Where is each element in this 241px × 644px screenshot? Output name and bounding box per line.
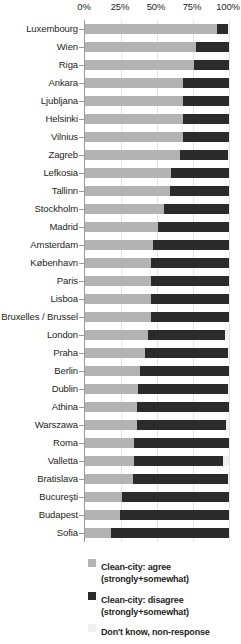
chart-row: Ankara: [0, 73, 241, 93]
bar-segment-dont-know: [228, 348, 229, 358]
bar-segment-agree: [85, 348, 145, 358]
x-axis-tick-75: 75%: [183, 1, 201, 13]
y-axis-tick: [79, 371, 84, 372]
legend-label: Don't know, non-response: [101, 627, 210, 637]
y-axis-tick: [79, 101, 84, 102]
bar-segment-disagree: [137, 402, 229, 412]
legend-label: Clean-city: agree(strongly+somewhat): [101, 562, 241, 586]
category-label-ankara: Ankara: [0, 73, 78, 93]
bar-segment-agree: [85, 330, 148, 340]
legend-item-2[interactable]: Don't know, non-response: [88, 621, 241, 639]
category-label-roma: Roma: [0, 433, 78, 453]
category-label-bucure-ti: Bucureşti: [0, 487, 78, 507]
chart-row: Wien: [0, 37, 241, 57]
bar-segment-disagree: [134, 438, 229, 448]
bar-segment-dont-know: [223, 456, 229, 466]
bar-track: [85, 456, 229, 466]
bar-track: [85, 150, 229, 160]
category-label-ljubljana: Ljubljana: [0, 91, 78, 111]
bar-segment-agree: [85, 366, 140, 376]
bar-segment-agree: [85, 492, 122, 502]
chart-row: Bruxelles / Brussel: [0, 307, 241, 327]
chart-row: Madrid: [0, 217, 241, 237]
y-axis-tick: [79, 335, 84, 336]
bar-segment-agree: [85, 96, 183, 106]
legend-swatch-icon: [88, 559, 96, 567]
category-label-paris: Paris: [0, 271, 78, 291]
chart-row: Athina: [0, 397, 241, 417]
y-axis-tick: [79, 65, 84, 66]
bar-track: [85, 204, 229, 214]
chart-row: Sofia: [0, 523, 241, 543]
chart-row: Luxembourg: [0, 19, 241, 39]
chart-row: Ljubljana: [0, 91, 241, 111]
bar-segment-disagree: [151, 294, 229, 304]
bar-track: [85, 96, 229, 106]
category-label-amsterdam: Amsterdam: [0, 235, 78, 255]
y-axis-tick: [79, 281, 84, 282]
y-axis-tick: [79, 425, 84, 426]
y-axis-tick: [79, 119, 84, 120]
x-axis-tick-labels: 0%25%50%75%100%: [0, 0, 241, 16]
bar-track: [85, 276, 229, 286]
bar-segment-disagree: [111, 528, 229, 538]
bar-segment-disagree: [164, 204, 229, 214]
legend-item-0[interactable]: Clean-city: agree(strongly+somewhat): [88, 556, 241, 586]
category-label-madrid: Madrid: [0, 217, 78, 237]
y-axis-tick: [79, 29, 84, 30]
bar-segment-disagree: [122, 492, 229, 502]
bar-segment-disagree: [180, 150, 228, 160]
y-axis-tick: [79, 317, 84, 318]
bar-track: [85, 42, 229, 52]
bar-segment-disagree: [183, 132, 229, 142]
legend-label-line2: (strongly+somewhat): [101, 574, 241, 586]
bar-segment-disagree: [148, 330, 224, 340]
y-axis-tick: [79, 137, 84, 138]
bar-track: [85, 420, 229, 430]
bar-segment-dont-know: [228, 474, 229, 484]
y-axis-tick: [79, 533, 84, 534]
bar-segment-agree: [85, 222, 158, 232]
category-label-wien: Wien: [0, 37, 78, 57]
legend-item-1[interactable]: Clean-city: disagree(strongly+somewhat): [88, 589, 241, 619]
bar-track: [85, 24, 229, 34]
y-axis-tick: [79, 497, 84, 498]
chart-row: Amsterdam: [0, 235, 241, 255]
category-label-london: London: [0, 325, 78, 345]
legend-swatch-icon: [88, 592, 96, 600]
bar-segment-agree: [85, 132, 183, 142]
bar-segment-disagree: [194, 60, 229, 70]
bar-segment-disagree: [183, 96, 229, 106]
bar-segment-agree: [85, 186, 170, 196]
bar-segment-agree: [85, 204, 164, 214]
chart-row: Lefkosia: [0, 163, 241, 183]
y-axis-tick: [79, 461, 84, 462]
bar-segment-agree: [85, 510, 120, 520]
category-label-helsinki: Helsinki: [0, 109, 78, 129]
category-label-athina: Athina: [0, 397, 78, 417]
bar-track: [85, 438, 229, 448]
bar-segment-disagree: [140, 366, 229, 376]
bar-segment-disagree: [153, 240, 229, 250]
category-label-k-benhavn: København: [0, 253, 78, 273]
bar-segment-agree: [85, 150, 180, 160]
bar-segment-dont-know: [226, 420, 229, 430]
category-label-sofia: Sofia: [0, 523, 78, 543]
bar-segment-agree: [85, 528, 111, 538]
chart-row: Stockholm: [0, 199, 241, 219]
bar-segment-agree: [85, 168, 171, 178]
bar-track: [85, 492, 229, 502]
bar-segment-agree: [85, 312, 151, 322]
chart-row: Valletta: [0, 451, 241, 471]
bar-track: [85, 132, 229, 142]
chart-row: Roma: [0, 433, 241, 453]
bar-segment-agree: [85, 474, 133, 484]
bar-track: [85, 510, 229, 520]
chart-row: Budapest: [0, 505, 241, 525]
bar-track: [85, 330, 229, 340]
bar-segment-agree: [85, 402, 137, 412]
y-axis-tick: [79, 443, 84, 444]
category-label-praha: Praha: [0, 343, 78, 363]
bar-segment-disagree: [151, 258, 229, 268]
bar-segment-dont-know: [225, 330, 229, 340]
